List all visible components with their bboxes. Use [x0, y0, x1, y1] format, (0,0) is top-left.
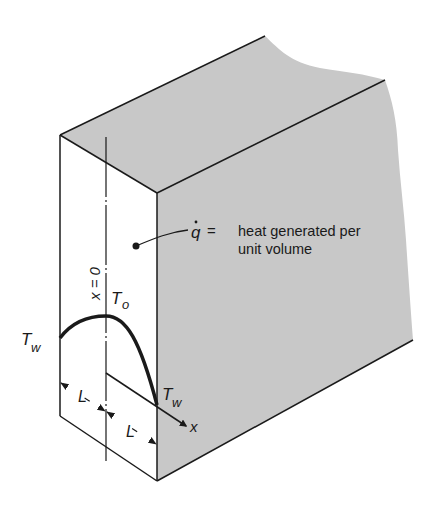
- half-thickness-left-label: L: [78, 388, 87, 405]
- slab-diagram: q = heat generated per unit volume x = 0…: [0, 0, 440, 515]
- wall-temperature-left-label: T w: [21, 330, 42, 355]
- q-description-line1: heat generated per: [238, 223, 361, 239]
- slab-front-face: [60, 135, 157, 481]
- equals-sign: =: [207, 222, 216, 239]
- svg-text:w: w: [31, 340, 42, 355]
- half-thickness-right-label: L: [126, 423, 135, 440]
- q-dot-symbol: q: [191, 223, 201, 242]
- q-description-line2: unit volume: [238, 241, 312, 257]
- x-axis-label: x: [189, 418, 198, 435]
- q-dot-accent: [195, 221, 198, 224]
- center-plane-label: x = 0: [86, 266, 103, 301]
- svg-text:w: w: [172, 395, 183, 410]
- svg-text:o: o: [122, 297, 129, 312]
